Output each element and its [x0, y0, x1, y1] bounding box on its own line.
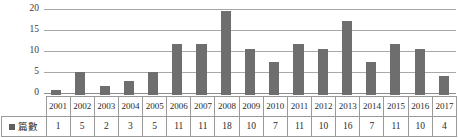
table-value-cell: 10	[408, 117, 432, 137]
table-value-cell: 11	[167, 117, 191, 137]
bar	[318, 49, 328, 96]
grid-area	[44, 0, 458, 96]
table-header-cell: 2016	[408, 97, 432, 117]
table-header-cell: 2015	[384, 97, 408, 117]
bar	[415, 49, 425, 96]
bar-slot	[189, 0, 213, 95]
table-header-cell: 2012	[312, 97, 336, 117]
bar-slot	[335, 0, 359, 95]
bar-slot	[432, 0, 456, 95]
bar	[439, 76, 449, 95]
bar	[390, 44, 400, 95]
data-table: 2001200220032004200520062007200820092010…	[1, 96, 457, 137]
bar-slot	[408, 0, 432, 95]
bar-slot	[44, 0, 68, 95]
table-value-cell: 16	[336, 117, 360, 137]
table-value-cell: 3	[118, 117, 142, 137]
table-row: 篇數 15235111118107111016711104	[2, 117, 457, 137]
table-header-row: 2001200220032004200520062007200820092010…	[2, 97, 457, 117]
y-axis: 20 15 10 5 0	[0, 0, 44, 96]
bar-slot	[311, 0, 335, 95]
table-header-cell: 2002	[70, 97, 94, 117]
bar-slot	[141, 0, 165, 95]
table-value-cell: 1	[46, 117, 70, 137]
y-axis-tick: 15	[30, 25, 40, 35]
table-header-cell: 2009	[239, 97, 263, 117]
table-value-cell: 7	[360, 117, 384, 137]
bar-slot	[214, 0, 238, 95]
bar-slot	[165, 0, 189, 95]
table-header-cell: 2010	[263, 97, 287, 117]
table-value-cell: 11	[384, 117, 408, 137]
table-header-cell: 2011	[287, 97, 311, 117]
legend-label: 篇數	[18, 122, 38, 132]
table-header-cell: 2001	[46, 97, 70, 117]
y-axis-tick: 20	[30, 4, 40, 14]
bar	[342, 21, 352, 95]
bar	[124, 81, 134, 95]
bar-slot	[383, 0, 407, 95]
bar	[221, 11, 231, 95]
bar-slot	[117, 0, 141, 95]
bar	[75, 72, 85, 95]
bar-slot	[262, 0, 286, 95]
table-header-cell: 2005	[143, 97, 167, 117]
table-header-cell: 2017	[432, 97, 456, 117]
bar-chart-with-data-table: 20 15 10 5 0 200120022003200420052006200…	[0, 0, 458, 138]
y-axis-tick: 10	[30, 46, 40, 56]
bar-slot	[92, 0, 116, 95]
bar	[269, 62, 279, 95]
table-value-cell: 11	[191, 117, 215, 137]
legend-cell: 篇數	[2, 117, 47, 137]
table-header-cell: 2008	[215, 97, 239, 117]
table-value-cell: 18	[215, 117, 239, 137]
table-value-cell: 4	[432, 117, 456, 137]
table-value-cell: 7	[263, 117, 287, 137]
table-header-cell: 2006	[167, 97, 191, 117]
bar-slot	[359, 0, 383, 95]
bar-slot	[68, 0, 92, 95]
square-marker-icon	[9, 124, 15, 130]
bar	[293, 44, 303, 95]
table-header-cell: 2014	[360, 97, 384, 117]
bar	[100, 86, 110, 95]
bar	[51, 90, 61, 95]
plot-area: 20 15 10 5 0	[0, 0, 458, 96]
bar-series	[44, 0, 456, 95]
bar	[196, 44, 206, 95]
header-corner-cell	[2, 97, 47, 117]
table-value-cell: 5	[143, 117, 167, 137]
table-value-cell: 10	[239, 117, 263, 137]
table-header-cell: 2004	[118, 97, 142, 117]
bar	[172, 44, 182, 95]
y-axis-tick: 5	[34, 67, 39, 77]
bar	[366, 62, 376, 95]
bar-slot	[238, 0, 262, 95]
table-value-cell: 11	[287, 117, 311, 137]
table-header-cell: 2013	[336, 97, 360, 117]
table-header-cell: 2007	[191, 97, 215, 117]
table-value-cell: 10	[312, 117, 336, 137]
table-value-cell: 2	[94, 117, 118, 137]
bar-slot	[286, 0, 310, 95]
data-table-wrap: 2001200220032004200520062007200820092010…	[0, 96, 458, 138]
table-value-cell: 5	[70, 117, 94, 137]
bar	[245, 49, 255, 96]
bar	[148, 72, 158, 95]
table-header-cell: 2003	[94, 97, 118, 117]
